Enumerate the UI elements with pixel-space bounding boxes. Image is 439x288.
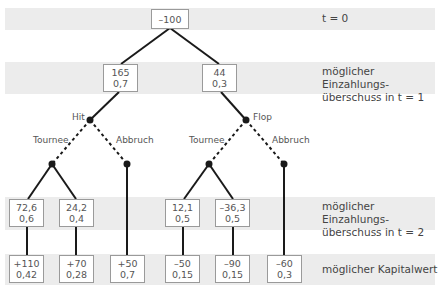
branch-label-tournee-left: Tournee [33, 135, 69, 145]
level1-node-flop: 44 0,3 [202, 64, 237, 92]
decision-node-tournee-left-icon [49, 161, 56, 168]
node-probability: 0,7 [113, 78, 128, 89]
row-label-t1-line1: möglicher Einzahlungs- [322, 65, 439, 91]
branch-label-tournee-right: Tournee [189, 135, 225, 145]
node-value: 44 [213, 67, 225, 78]
node-value: –90 [224, 258, 241, 269]
branch-label-abbruch-right: Abbruch [272, 135, 310, 145]
row-label-t0: t = 0 [322, 12, 348, 25]
node-probability: 0,15 [222, 269, 243, 280]
node-probability: 0,4 [69, 213, 84, 224]
row-label-t2-line1: möglicher Einzahlungs- [322, 200, 439, 226]
level2-node-2: 24,2 0,4 [59, 199, 94, 227]
chance-node-flop-icon [243, 117, 250, 124]
node-value: +50 [117, 258, 137, 269]
row-label-t0-text: t = 0 [322, 12, 348, 24]
decision-node-abbruch-left-icon [124, 161, 131, 168]
row-label-t2: möglicher Einzahlungs- überschuss in t =… [322, 200, 439, 239]
outcome-node-5: –90 0,15 [215, 255, 250, 283]
level2-node-3: 12,1 0,5 [165, 199, 200, 227]
level2-node-4: –36,3 0,5 [215, 199, 250, 227]
root-node: –100 [151, 9, 189, 29]
outcome-node-3: +50 0,7 [110, 255, 145, 283]
node-value: –60 [276, 258, 293, 269]
decision-node-tournee-right-icon [206, 161, 213, 168]
node-probability: 0,3 [277, 269, 292, 280]
chance-node-hit-icon [87, 117, 94, 124]
outcome-node-4: –50 0,15 [165, 255, 200, 283]
node-probability: 0,15 [172, 269, 193, 280]
row-label-npv: möglicher Kapitalwert [322, 263, 437, 276]
node-probability: 0,3 [212, 78, 227, 89]
node-value: 165 [111, 67, 129, 78]
node-probability: 0,42 [16, 269, 37, 280]
node-value: +70 [66, 258, 86, 269]
node-value: 12,1 [172, 202, 193, 213]
branch-label-hit: Hit [72, 112, 85, 122]
row-label-t1-line2: überschuss in t = 1 [322, 91, 439, 104]
level2-node-1: 72,6 0,6 [9, 199, 44, 227]
node-value: –36,3 [220, 202, 246, 213]
outcome-node-1: +110 0,42 [9, 255, 44, 283]
node-value: –50 [174, 258, 191, 269]
outcome-node-6: –60 0,3 [267, 255, 302, 283]
node-probability: 0,6 [19, 213, 34, 224]
branch-label-flop: Flop [253, 112, 272, 122]
row-label-npv-text: möglicher Kapitalwert [322, 263, 437, 275]
root-value: –100 [159, 14, 182, 25]
node-probability: 0,5 [175, 213, 190, 224]
node-probability: 0,5 [225, 213, 240, 224]
node-value: 24,2 [66, 202, 87, 213]
node-value: 72,6 [16, 202, 37, 213]
row-label-t2-line2: überschuss in t = 2 [322, 226, 439, 239]
branch-label-abbruch-left: Abbruch [116, 135, 154, 145]
level1-node-hit: 165 0,7 [103, 64, 138, 92]
outcome-node-2: +70 0,28 [59, 255, 94, 283]
node-probability: 0,7 [120, 269, 135, 280]
node-probability: 0,28 [66, 269, 87, 280]
node-value: +110 [13, 258, 39, 269]
decision-node-abbruch-right-icon [281, 161, 288, 168]
row-label-t1: möglicher Einzahlungs- überschuss in t =… [322, 65, 439, 104]
